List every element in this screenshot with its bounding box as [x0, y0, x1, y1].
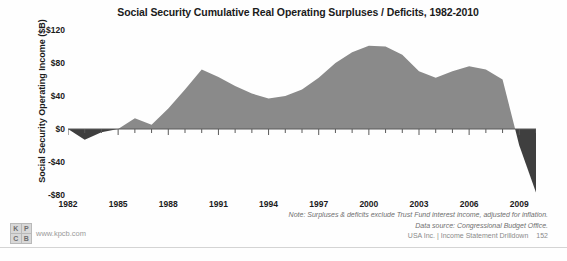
kpcb-website-url: www.kpcb.com: [36, 229, 86, 238]
chart-footnotes: Note: Surpluses & deficits exclude Trust…: [289, 210, 548, 242]
x-axis-tick-2000: 2000: [359, 199, 378, 209]
logo-letter-b: B: [22, 234, 32, 243]
x-axis-tick-2003: 2003: [410, 199, 429, 209]
y-axis-tick-0: $0: [56, 125, 65, 134]
page-number: 152: [536, 232, 548, 239]
x-axis-tick-2006: 2006: [460, 199, 479, 209]
note-methodology: Note: Surpluses & deficits exclude Trust…: [289, 210, 548, 221]
slide: Social Security Cumulative Real Operatin…: [0, 0, 567, 261]
logo-letter-p: P: [22, 224, 32, 233]
area-deficit-region: [68, 129, 118, 140]
chart-plot-area: [68, 30, 536, 195]
chart-title: Social Security Cumulative Real Operatin…: [63, 6, 533, 18]
deck-title: USA Inc. | Income Statement Drilldown: [408, 232, 528, 239]
note-data-source: Data source: Congressional Budget Office…: [289, 221, 548, 232]
y-axis-tick-neg40: -$40: [48, 158, 65, 167]
x-axis-tick-1991: 1991: [209, 199, 228, 209]
x-axis-tick-1985: 1985: [109, 199, 128, 209]
logo-letter-c: C: [11, 234, 21, 243]
note-deck-reference: USA Inc. | Income Statement Drilldown152: [289, 231, 548, 242]
area-deficit-region: [515, 129, 536, 193]
x-axis-tick-1988: 1988: [159, 199, 178, 209]
kpcb-branding: K P C B www.kpcb.com: [10, 223, 86, 244]
x-axis-tick-2009: 2009: [510, 199, 529, 209]
footer-divider: [0, 247, 567, 248]
x-axis-tick-1997: 1997: [309, 199, 328, 209]
y-axis-tick-120: $120: [46, 26, 65, 35]
y-axis-tick-labels: $120$80$40$0-$40-$80: [33, 30, 65, 195]
y-axis-tick-40: $40: [51, 92, 65, 101]
y-axis-tick-80: $80: [51, 59, 65, 68]
x-axis-tick-1982: 1982: [59, 199, 78, 209]
area-surplus-region: [118, 46, 515, 129]
x-axis-tick-1994: 1994: [259, 199, 278, 209]
logo-letter-k: K: [11, 224, 21, 233]
kpcb-logo-icon: K P C B: [10, 223, 32, 244]
area-chart-svg: [68, 30, 536, 195]
